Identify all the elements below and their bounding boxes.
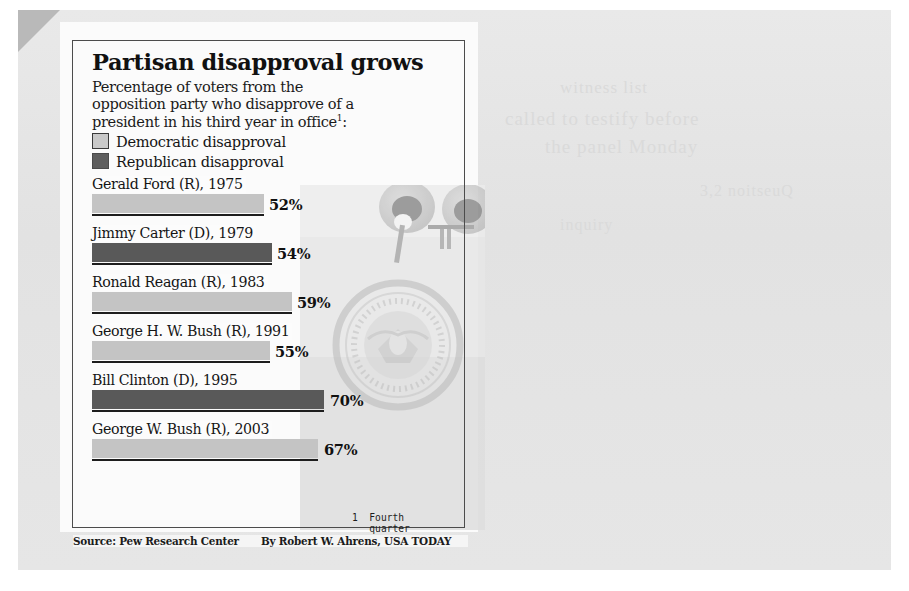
bar-row: Jimmy Carter (D), 1979 54% — [92, 224, 465, 273]
bar-row-label: Bill Clinton (D), 1995 — [92, 372, 240, 389]
chart-content: Partisan disapproval grows Percentage of… — [72, 40, 465, 528]
chart-legend: Democratic disapproval Republican disapp… — [92, 131, 465, 171]
bar-value-label: 67% — [324, 441, 357, 458]
bar-rows: Gerald Ford (R), 1975 52% Jimmy Carter (… — [92, 175, 465, 469]
bleed-text-line-1: witness list — [560, 78, 648, 98]
bar-value-label: 59% — [297, 294, 330, 311]
bar-baseline-rule — [92, 263, 272, 265]
screenshot-root: witness list called to testify before th… — [0, 0, 909, 591]
bar-baseline-rule — [92, 312, 292, 314]
bar-track: 59% — [92, 292, 465, 317]
source-text: Source: Pew Research Center — [73, 535, 239, 547]
chart-footnote: 1 Fourth quarter — [352, 512, 410, 534]
legend-swatch-republican — [92, 153, 109, 169]
bar-baseline-rule — [92, 410, 324, 412]
bar-row-label: Gerald Ford (R), 1975 — [92, 176, 246, 193]
legend-label-republican: Republican disapproval — [116, 153, 284, 170]
bar-row-label: Ronald Reagan (R), 1983 — [92, 274, 268, 291]
bar-baseline-rule — [92, 361, 270, 363]
bar-track: 70% — [92, 390, 465, 415]
bar-fill — [92, 194, 264, 213]
bleed-text-line-2: called to testify before — [505, 108, 699, 130]
bleed-text-line-3: the panel Monday — [545, 136, 698, 158]
legend-swatch-democratic — [92, 133, 109, 149]
bleed-text-line-4: 3,2 noitseuQ — [700, 182, 794, 200]
bar-row: George W. Bush (R), 2003 67% — [92, 420, 465, 469]
bar-fill — [92, 341, 270, 360]
bar-track: 52% — [92, 194, 465, 219]
bar-row: George H. W. Bush (R), 1991 55% — [92, 322, 465, 371]
chart-subtitle-line-3: third year in office — [206, 113, 337, 130]
bar-track: 67% — [92, 439, 465, 464]
chart-subtitle: Percentage of voters from the opposition… — [92, 78, 360, 130]
bar-baseline-rule — [92, 459, 318, 461]
legend-item-democratic: Democratic disapproval — [92, 131, 465, 151]
bar-value-label: 52% — [269, 196, 302, 213]
bar-row: Ronald Reagan (R), 1983 59% — [92, 273, 465, 322]
bleed-text-line-5: inquiry — [560, 216, 613, 234]
credit-text: By Robert W. Ahrens, USA TODAY — [261, 535, 451, 547]
bar-fill — [92, 292, 292, 311]
bar-baseline-rule — [92, 214, 264, 216]
source-credit-line: Source: Pew Research Center By Robert W.… — [73, 535, 468, 547]
chart-subtitle-suffix: : — [342, 113, 347, 130]
bar-row-label: George H. W. Bush (R), 1991 — [92, 323, 292, 340]
bar-row-label: George W. Bush (R), 2003 — [92, 421, 272, 438]
bar-row: Gerald Ford (R), 1975 52% — [92, 175, 465, 224]
bar-row-label: Jimmy Carter (D), 1979 — [92, 225, 256, 242]
bar-row: Bill Clinton (D), 1995 70% — [92, 371, 465, 420]
bar-fill — [92, 439, 318, 458]
bar-track: 54% — [92, 243, 465, 268]
bar-value-label: 70% — [330, 392, 363, 409]
bar-fill — [92, 243, 272, 262]
bar-value-label: 54% — [277, 245, 310, 262]
legend-item-republican: Republican disapproval — [92, 151, 465, 171]
bar-track: 55% — [92, 341, 465, 366]
legend-label-democratic: Democratic disapproval — [116, 133, 286, 150]
bar-value-label: 55% — [275, 343, 308, 360]
bar-fill — [92, 390, 324, 409]
chart-title: Partisan disapproval grows — [92, 50, 465, 75]
